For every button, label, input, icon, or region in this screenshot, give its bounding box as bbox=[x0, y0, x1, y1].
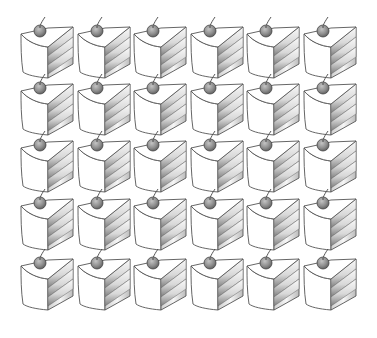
cake-slice-with-cherry-icon bbox=[244, 128, 304, 194]
cake-grid bbox=[0, 0, 377, 338]
cake-slice-with-cherry-icon bbox=[131, 186, 191, 252]
cake-slice-with-cherry-icon bbox=[301, 128, 361, 194]
cake-slice-with-cherry-icon bbox=[75, 246, 135, 312]
cake-slice-with-cherry-icon bbox=[188, 128, 248, 194]
cake-slice-with-cherry-icon bbox=[18, 128, 78, 194]
cake-slice-with-cherry-icon bbox=[188, 186, 248, 252]
cake-slice-with-cherry-icon bbox=[75, 186, 135, 252]
cake-slice-with-cherry-icon bbox=[18, 246, 78, 312]
cake-slice-with-cherry-icon bbox=[301, 186, 361, 252]
cake-slice-with-cherry-icon bbox=[244, 246, 304, 312]
cake-slice-with-cherry-icon bbox=[75, 128, 135, 194]
cake-slice-with-cherry-icon bbox=[244, 186, 304, 252]
cake-slice-with-cherry-icon bbox=[18, 186, 78, 252]
cake-slice-with-cherry-icon bbox=[131, 246, 191, 312]
cake-slice-with-cherry-icon bbox=[188, 246, 248, 312]
cake-slice-with-cherry-icon bbox=[131, 128, 191, 194]
cake-slice-with-cherry-icon bbox=[301, 246, 361, 312]
